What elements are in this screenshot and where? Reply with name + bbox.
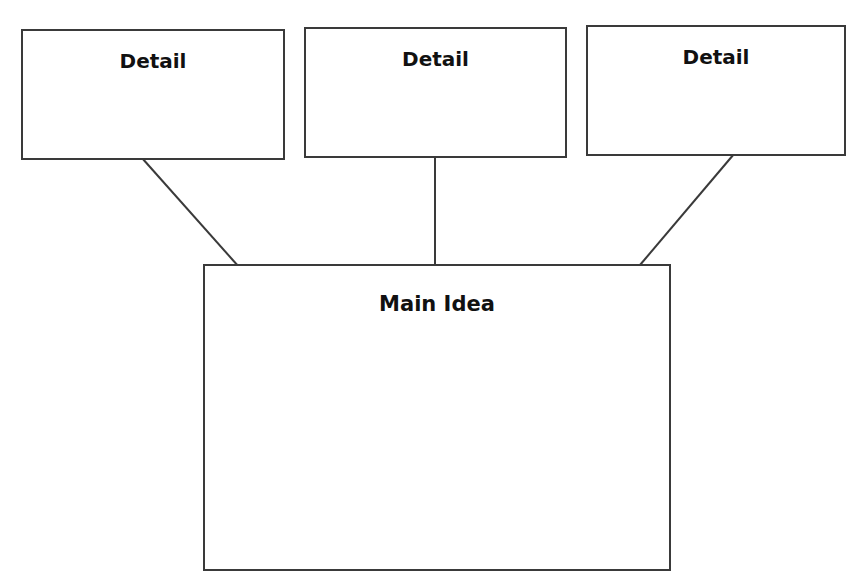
connector-detail-1 [142,158,239,267]
detail-label: Detail [588,45,844,69]
connector-detail-3 [640,154,734,265]
detail-box-3: Detail [586,25,846,156]
detail-label: Detail [23,49,283,73]
main-idea-label: Main Idea [205,292,669,316]
detail-label: Detail [306,47,565,71]
detail-box-1: Detail [21,29,285,160]
main-idea-box: Main Idea [203,264,671,571]
detail-box-2: Detail [304,27,567,158]
